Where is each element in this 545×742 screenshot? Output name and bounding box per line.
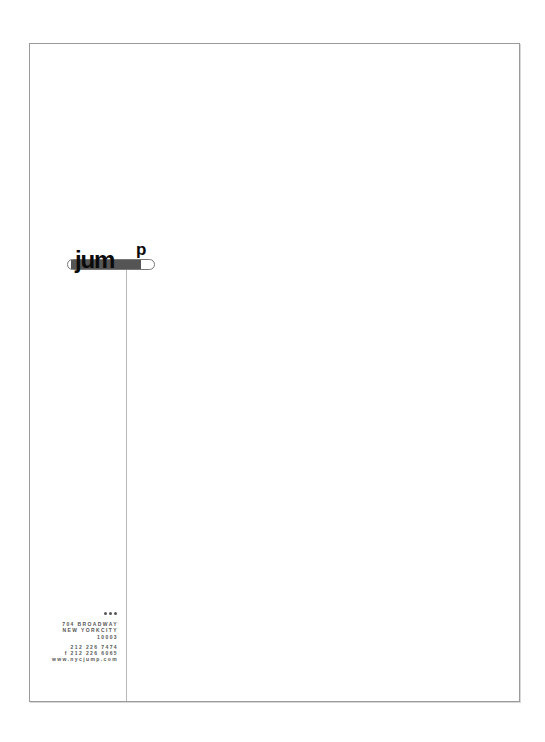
contact-block: 704 BROADWAY NEW YORKCITY 10003 212 226 … [30, 612, 118, 663]
logo-superscript: p [136, 241, 146, 258]
dot-icon [104, 612, 107, 615]
website: www.nycjump.com [30, 656, 118, 662]
logo-word: jum [75, 248, 114, 272]
jump-logo: jum p [66, 249, 156, 281]
letterhead-page: jum p 704 BROADWAY NEW YORKCITY 10003 21… [29, 43, 520, 702]
dot-icon [109, 612, 112, 615]
dot-icon [114, 612, 117, 615]
vertical-rule [126, 269, 127, 701]
three-dots-icon [30, 612, 118, 615]
